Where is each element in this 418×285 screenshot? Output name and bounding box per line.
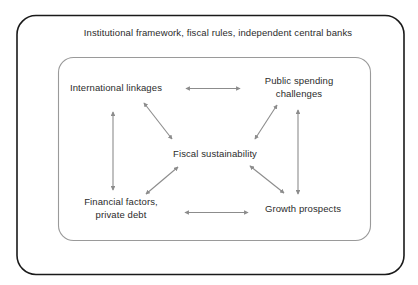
node-growth-prospects: Growth prospects xyxy=(244,203,362,216)
diagram-graphics xyxy=(0,0,418,285)
outer-frame xyxy=(17,16,404,275)
node-financial-factors: Financial factors, private debt xyxy=(60,196,182,221)
connector-financial-to-fiscal xyxy=(146,167,178,194)
connector-international-to-fiscal xyxy=(144,103,172,139)
node-public-spending-challenges: Public spending challenges xyxy=(240,75,358,100)
connector-public-to-fiscal xyxy=(255,105,277,139)
node-fiscal-sustainability: Fiscal sustainability xyxy=(148,148,282,161)
diagram-canvas: Institutional framework, fiscal rules, i… xyxy=(0,0,418,285)
node-international-linkages: International linkages xyxy=(56,82,176,95)
connector-fiscal-to-growth xyxy=(250,166,284,193)
diagram-title: Institutional framework, fiscal rules, i… xyxy=(30,27,406,40)
